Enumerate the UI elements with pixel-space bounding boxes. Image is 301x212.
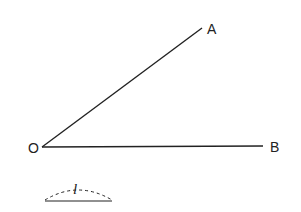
length-dashed-arc [45, 190, 112, 200]
label-B: B [270, 139, 279, 155]
label-A: A [207, 21, 217, 37]
label-O: O [28, 140, 39, 156]
ray-OB [42, 146, 263, 147]
diagram-canvas: O A B l [0, 0, 301, 212]
ray-OA [42, 28, 202, 147]
length-label: l [73, 181, 77, 197]
angle-diagram: O A B l [0, 0, 301, 212]
